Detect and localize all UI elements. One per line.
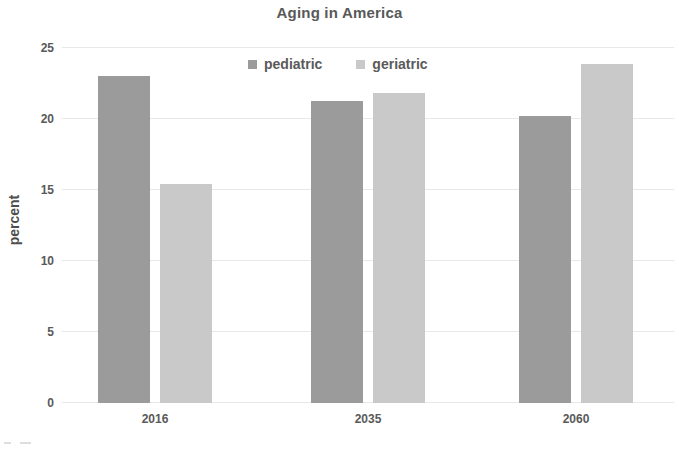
plot-area	[62, 48, 674, 403]
bar-pediatric-2060	[519, 116, 571, 403]
x-tick-label: 2035	[308, 412, 428, 426]
chart-title: Aging in America	[0, 4, 679, 21]
bar-pediatric-2035	[311, 101, 363, 403]
x-tick-label: 2060	[516, 412, 636, 426]
y-tick-label: 0	[24, 397, 54, 409]
y-axis-tick-labels: 0510152025	[20, 48, 54, 403]
bar-chart: Aging in America percent 0510152025 2016…	[0, 0, 679, 451]
legend-label: pediatric	[264, 56, 322, 72]
bar-geriatric-2060	[581, 64, 633, 403]
x-axis-tick-labels: 201620352060	[62, 412, 674, 432]
bar-geriatric-2016	[160, 184, 212, 403]
chart-legend: pediatricgeriatric	[248, 56, 428, 72]
legend-item-geriatric[interactable]: geriatric	[356, 56, 427, 72]
y-tick-label: 25	[24, 42, 54, 54]
y-tick-label: 20	[24, 113, 54, 125]
legend-swatch-icon	[248, 60, 257, 69]
gridline	[62, 47, 674, 48]
legend-item-pediatric[interactable]: pediatric	[248, 56, 322, 72]
y-tick-label: 10	[24, 255, 54, 267]
page-scan-artifact	[4, 440, 44, 445]
x-tick-label: 2016	[95, 412, 215, 426]
y-tick-label: 15	[24, 184, 54, 196]
bar-pediatric-2016	[98, 76, 150, 403]
legend-swatch-icon	[356, 60, 365, 69]
legend-label: geriatric	[372, 56, 427, 72]
bar-geriatric-2035	[373, 93, 425, 403]
y-tick-label: 5	[24, 326, 54, 338]
